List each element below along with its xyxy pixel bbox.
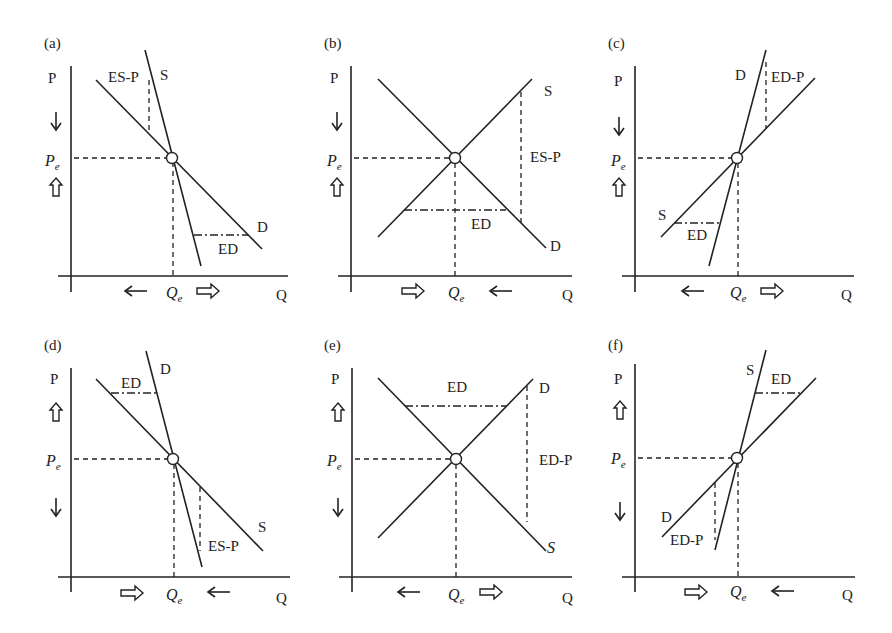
- arrow-down-icon: [51, 498, 61, 516]
- panel-tag: (c): [608, 35, 625, 52]
- equilibrium-point: [450, 153, 461, 164]
- quantity-axis-label: Q: [842, 587, 853, 603]
- vertical-gap-label: ES-P: [108, 69, 139, 85]
- price-axis-label: P: [614, 371, 622, 387]
- equilibrium-point: [451, 454, 462, 465]
- arrow-up-hollow-icon: [613, 178, 625, 196]
- equilibrium-price-label: Pe: [610, 450, 626, 470]
- curve-label: D: [160, 361, 171, 377]
- curve-label: S: [160, 67, 168, 83]
- curve-label: S: [544, 83, 552, 99]
- equilibrium-price-label: Pe: [610, 152, 626, 172]
- equilibrium-point: [732, 453, 743, 464]
- equilibrium-price-label: Pe: [45, 452, 61, 472]
- arrow-down-icon: [615, 502, 625, 520]
- panel-tag: (d): [44, 337, 62, 354]
- figure-canvas: (a) P Q Pe Qe ES-P S D ED (b) P Q Pe Qe: [0, 0, 892, 633]
- vertical-gap-label: ES-P: [530, 149, 561, 165]
- arrow-down-icon: [333, 498, 343, 516]
- arrow-right-hollow-icon: [121, 586, 143, 600]
- panel-c: (c) P Q Pe Qe ED-P D S ED: [608, 35, 854, 304]
- equilibrium-price-label: Pe: [326, 152, 342, 172]
- price-axis-label: P: [330, 70, 338, 86]
- curve-label: D: [257, 219, 268, 235]
- arrow-left-icon: [490, 286, 512, 296]
- equilibrium-point: [168, 454, 179, 465]
- supply-curve: [715, 350, 766, 550]
- equilibrium-quantity-label: Qe: [166, 284, 183, 304]
- curve-label: D: [661, 509, 672, 525]
- panel-tag: (b): [324, 35, 342, 52]
- curve-label: S: [258, 519, 266, 535]
- horizontal-gap-label: ED: [471, 216, 491, 232]
- curve-label: D: [539, 380, 550, 396]
- equilibrium-quantity-label: Qe: [448, 586, 465, 606]
- panel-b: (b) P Q Pe Qe ES-P S D ED: [324, 35, 573, 304]
- equilibrium-quantity-label: Qe: [166, 586, 183, 606]
- equilibrium-point: [732, 153, 743, 164]
- price-axis-label: P: [48, 70, 56, 86]
- arrow-left-icon: [208, 587, 230, 597]
- quantity-axis-label: Q: [276, 590, 287, 606]
- arrow-left-icon: [682, 286, 704, 296]
- arrow-up-hollow-icon: [50, 403, 62, 421]
- arrow-right-hollow-icon: [197, 284, 219, 298]
- equilibrium-quantity-label: Qe: [730, 284, 747, 304]
- panel-a: (a) P Q Pe Qe ES-P S D ED: [44, 35, 288, 304]
- arrow-up-hollow-icon: [332, 403, 344, 421]
- vertical-gap-label: ES-P: [208, 538, 239, 554]
- equilibrium-price-label: Pe: [326, 452, 342, 472]
- arrow-left-icon: [772, 586, 794, 596]
- supply-curve: [378, 378, 546, 551]
- arrow-up-hollow-icon: [50, 178, 62, 196]
- arrow-left-icon: [125, 286, 147, 296]
- quantity-axis-label: Q: [562, 287, 573, 303]
- arrow-right-hollow-icon: [685, 585, 707, 599]
- curve-label: S: [658, 207, 666, 223]
- panel-tag: (e): [324, 337, 341, 354]
- arrow-down-icon: [51, 112, 61, 130]
- quantity-axis-label: Q: [562, 590, 573, 606]
- curve-label: S: [746, 362, 754, 378]
- panel-d: (d) P Q Pe Qe ED D S ES-P: [44, 337, 290, 606]
- curve-label: S: [547, 539, 555, 556]
- price-axis-label: P: [331, 371, 339, 387]
- horizontal-gap-label: ED: [447, 379, 467, 395]
- horizontal-gap-label: ED: [218, 241, 238, 257]
- price-axis-label: P: [50, 371, 58, 387]
- horizontal-gap-label: ED: [687, 227, 707, 243]
- horizontal-gap-label: ED: [121, 375, 141, 391]
- arrow-left-icon: [398, 587, 420, 597]
- vertical-gap-label: ED-P: [539, 452, 572, 468]
- vertical-gap-label: ED-P: [771, 69, 804, 85]
- panel-tag: (a): [44, 35, 61, 52]
- equilibrium-quantity-label: Qe: [730, 583, 747, 603]
- arrow-right-hollow-icon: [402, 284, 424, 298]
- arrow-right-hollow-icon: [480, 585, 502, 599]
- horizontal-gap-label: ED: [771, 371, 791, 387]
- panel-tag: (f): [608, 337, 623, 354]
- equilibrium-quantity-label: Qe: [448, 284, 465, 304]
- arrow-down-icon: [332, 112, 342, 130]
- quantity-axis-label: Q: [841, 287, 852, 303]
- panel-e: (e) P Q Pe Qe ED D S ED-P: [324, 337, 573, 606]
- curve-label: D: [550, 238, 561, 254]
- arrow-down-icon: [614, 117, 624, 135]
- equilibrium-point: [167, 153, 178, 164]
- demand-curve: [96, 80, 262, 249]
- panel-f: (f) P Q Pe Qe ED S D ED-P: [608, 337, 855, 603]
- vertical-gap-label: ED-P: [670, 532, 703, 548]
- quantity-axis-label: Q: [276, 287, 287, 303]
- curve-label: D: [735, 67, 746, 83]
- arrow-up-hollow-icon: [614, 401, 626, 419]
- supply-curve: [96, 379, 263, 551]
- price-axis-label: P: [614, 73, 622, 89]
- equilibrium-price-label: Pe: [44, 152, 60, 172]
- arrow-up-hollow-icon: [331, 178, 343, 196]
- arrow-right-hollow-icon: [761, 284, 783, 298]
